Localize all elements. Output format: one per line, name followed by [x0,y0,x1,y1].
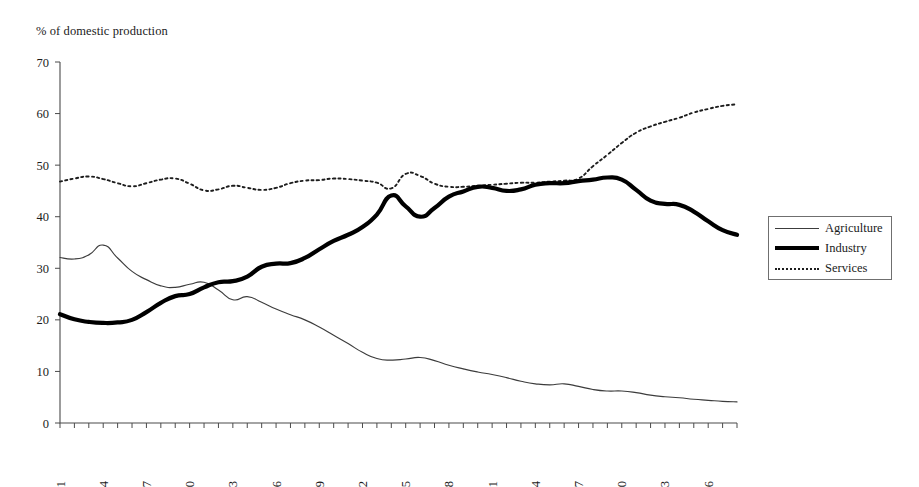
legend-label-industry: Industry [825,242,867,255]
axis-lines [60,62,737,423]
x-tick-label: 1972 [356,481,370,487]
x-tick-label: 1984 [529,480,543,487]
x-tick-label: 1966 [270,481,284,487]
line-chart: % of domestic production 010203040506070… [0,0,919,487]
x-tick-label: 1978 [442,481,456,487]
x-tick-label: 1990 [615,481,629,487]
legend-item-services[interactable]: Services [775,258,867,278]
legend-label-services: Services [825,262,867,275]
x-tick-label: 1987 [572,481,586,487]
series-line-services [60,104,737,191]
y-tick-label: 0 [43,417,49,431]
x-tick-label: 1996 [702,481,716,487]
x-axis-ticks: 1951195419571960196319661969197219751978… [54,423,738,487]
x-tick-label: 1954 [97,480,111,487]
x-tick-label: 1969 [313,481,327,487]
y-axis-ticks: 010203040506070 [37,56,61,431]
y-tick-label: 30 [37,262,50,276]
legend-swatch-agriculture-icon [775,223,819,233]
legend-swatch-industry-icon [775,243,819,253]
y-tick-label: 70 [37,56,50,70]
y-tick-label: 40 [37,210,50,224]
legend-item-industry[interactable]: Industry [775,238,867,258]
x-tick-label: 1981 [486,481,500,487]
legend-item-agriculture[interactable]: Agriculture [775,218,883,238]
x-tick-label: 1957 [140,481,154,487]
y-tick-label: 60 [37,107,50,121]
x-tick-label: 1951 [54,481,68,487]
legend: Agriculture Industry Services [768,216,892,280]
y-tick-label: 10 [37,365,50,379]
x-tick-label: 1960 [183,481,197,487]
x-tick-label: 1975 [399,481,413,487]
series-line-agriculture [60,245,737,402]
x-tick-label: 1963 [226,481,240,487]
legend-label-agriculture: Agriculture [825,222,883,235]
x-tick-label: 1993 [658,481,672,487]
series-line-industry [60,177,737,323]
y-tick-label: 50 [37,159,50,173]
legend-swatch-services-icon [775,263,819,273]
y-tick-label: 20 [37,313,50,327]
